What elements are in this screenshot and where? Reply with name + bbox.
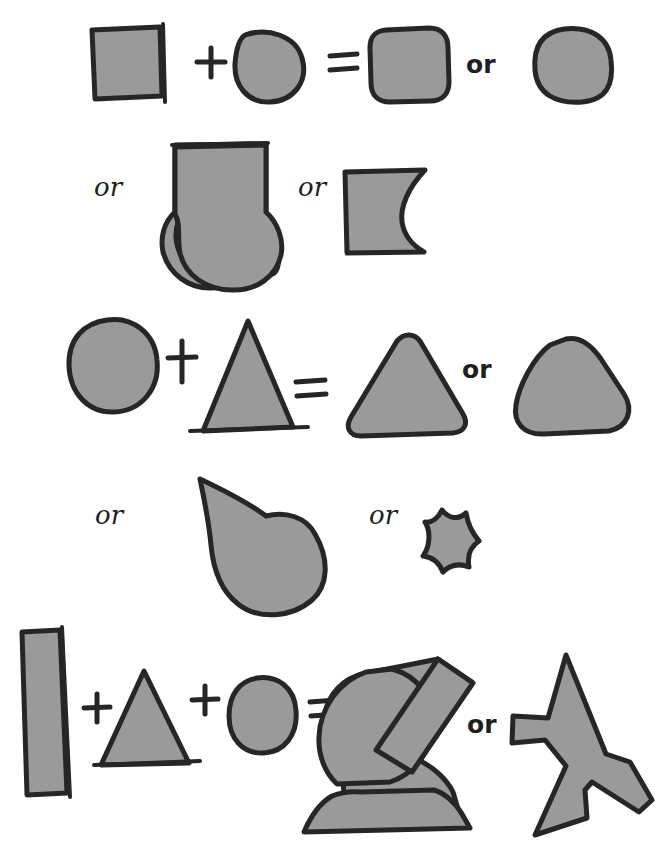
shape-rounded-triangle [348,335,465,436]
shape-square-with-circular-bite [345,170,425,253]
shape-square-operand-1 [92,27,162,99]
shape-circle-operand-1 [235,32,304,102]
shape-combination-diagram: or or or or [0,0,664,857]
shape-circle-operand-2 [69,319,157,412]
or-label-2: or [94,172,124,202]
diagram-canvas: or or or or [0,0,664,857]
plus-sign-3 [84,694,110,722]
shape-rectangle-operand [22,630,67,795]
equals-sign-2 [296,380,326,396]
shape-rounded-square-a [370,28,449,102]
or-label-3: or [298,172,328,202]
or-label-7: or [467,710,497,739]
plus-sign-2 [168,341,196,382]
shape-rounded-square-b [535,29,612,103]
square-operand-1-extra-stroke [163,24,165,102]
shape-concave-pentagon [423,510,479,572]
shape-square-with-circle-bottom-outline [175,145,282,290]
shape-blob-triangle [516,338,629,434]
or-label-5: or [95,500,125,530]
or-label-1: or [466,50,496,79]
or-label-6: or [369,500,399,530]
shape-teardrop [200,479,325,615]
equals-sign-1 [330,54,357,70]
shape-hill-base [304,790,470,832]
square-with-circle-bottom-top-stroke [172,143,268,145]
or-label-4: or [462,355,492,384]
plus-sign-4 [192,686,218,714]
shape-triangle-operand-1 [203,321,293,431]
shape-arrow-star [512,655,652,835]
plus-sign-1 [197,48,225,77]
shape-circle-operand-3 [229,678,296,753]
shape-triangle-operand-2 [101,671,189,765]
